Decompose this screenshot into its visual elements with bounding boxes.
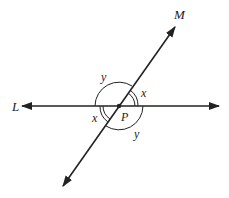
angle-arc-y-upper [95,82,132,106]
angle-label-x-lower: x [91,111,98,125]
label-L: L [11,99,19,114]
angle-arc-x-lower-outer [100,106,108,122]
angle-arc-x-lower-inner [103,106,110,119]
angle-label-y-upper: y [100,70,107,84]
label-M: M [173,7,186,22]
label-P: P [120,110,129,124]
angle-arc-x-upper-outer [130,90,138,106]
angle-arc-x-upper-inner [128,93,135,106]
geometry-diagram: L M P x y x y [0,0,229,198]
intersection-point [117,104,121,108]
angle-label-x-upper: x [140,86,147,100]
angle-label-y-lower: y [133,127,140,141]
